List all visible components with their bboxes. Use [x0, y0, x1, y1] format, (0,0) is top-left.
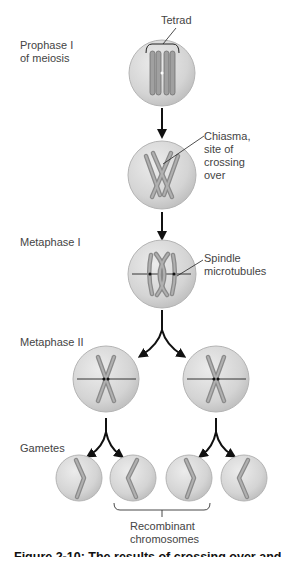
gamete-3 [166, 455, 212, 501]
stage-label-metaphase2: Metaphase II [20, 336, 84, 349]
gamete-1 [56, 455, 102, 501]
metaphase2-cell-right [183, 346, 249, 412]
stage-label-metaphase1: Metaphase I [20, 236, 81, 249]
metaphase1-cell [128, 240, 203, 308]
metaphase2-cell-left [73, 346, 139, 412]
stage-label-prophase: Prophase I of meiosis [20, 39, 73, 65]
annotation-recombinant: Recombinant chromosomes [130, 520, 199, 546]
prophase-cell [129, 28, 195, 106]
figure-caption: Figure 2-10: The results of crossing ove… [14, 548, 281, 557]
fork-arrow-left [90, 418, 120, 455]
gamete-2 [110, 455, 156, 501]
annotation-spindle: Spindle microtubules [204, 252, 266, 278]
annotation-tetrad: Tetrad [161, 14, 192, 27]
gamete-4 [221, 455, 267, 501]
stage-label-gametes: Gametes [20, 442, 65, 455]
fork-arrow-right [202, 418, 232, 455]
annotation-chiasma: Chiasma, site of crossing over [204, 130, 250, 182]
fork-arrow-metaphase1 [142, 310, 182, 355]
meiosis-diagram [0, 0, 284, 563]
recombinant-bracket [114, 503, 210, 510]
chiasma-cell [128, 136, 204, 209]
